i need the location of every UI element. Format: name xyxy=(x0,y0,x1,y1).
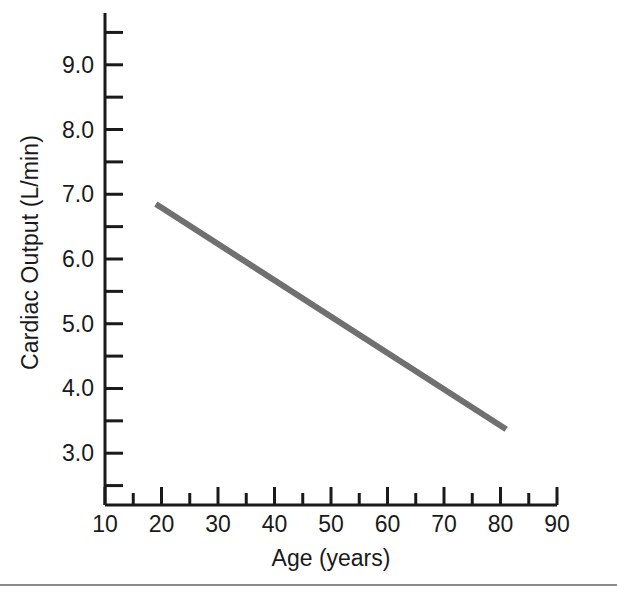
x-tick-label: 30 xyxy=(188,513,248,536)
y-tick-label: 8.0 xyxy=(30,118,94,141)
x-tick-label: 60 xyxy=(358,513,418,536)
x-tick-label: 70 xyxy=(414,513,474,536)
x-axis-title: Age (years) xyxy=(105,545,557,572)
y-tick-label: 6.0 xyxy=(30,248,94,271)
footer-divider xyxy=(0,584,617,586)
y-tick-label: 7.0 xyxy=(30,183,94,206)
x-tick-label: 40 xyxy=(245,513,305,536)
x-tick-label: 20 xyxy=(132,513,192,536)
series-line xyxy=(156,204,506,429)
x-tick-label: 50 xyxy=(301,513,361,536)
y-tick-label: 3.0 xyxy=(30,442,94,465)
x-tick-label: 90 xyxy=(527,513,587,536)
x-axis-ticks xyxy=(105,487,557,505)
x-tick-label: 10 xyxy=(75,513,135,536)
y-tick-label: 5.0 xyxy=(30,312,94,335)
cardiac-output-figure: Cardiac Output (L/min) Age (years) 3.04.… xyxy=(0,0,617,601)
x-tick-label: 80 xyxy=(471,513,531,536)
y-tick-label: 9.0 xyxy=(30,53,94,76)
data-series-group xyxy=(156,204,506,429)
y-tick-label: 4.0 xyxy=(30,377,94,400)
y-axis-ticks xyxy=(105,32,123,485)
